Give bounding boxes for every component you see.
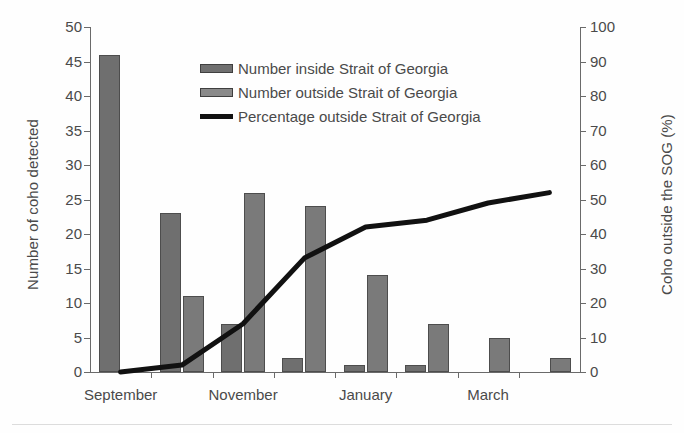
y-axis-right-tick-label: 80 <box>590 88 630 103</box>
legend-label-percentage: Percentage outside Strait of Georgia <box>238 109 481 124</box>
y-axis-left-tick-label: 0 <box>42 364 82 379</box>
y-axis-left-tick-label: 20 <box>42 226 82 241</box>
y-axis-right-tick-mark <box>580 372 586 373</box>
chart-legend: Number inside Strait of Georgia Number o… <box>200 56 481 128</box>
x-axis-tick-mark <box>213 373 214 378</box>
y-axis-left-tick-label: 5 <box>42 330 82 345</box>
y-axis-right-spine <box>580 27 581 372</box>
y-axis-right-tick-label: 30 <box>590 261 630 276</box>
bottom-divider <box>12 424 672 425</box>
y-axis-left-tick-label: 10 <box>42 295 82 310</box>
y-axis-right-tick-label: 10 <box>590 330 630 345</box>
y-axis-left-tick-label: 25 <box>42 192 82 207</box>
y-axis-left-tick-label: 35 <box>42 123 82 138</box>
y-axis-left-tick-label: 45 <box>42 54 82 69</box>
y-axis-left-title: Number of coho detected <box>24 85 41 325</box>
y-axis-right-tick-label: 20 <box>590 295 630 310</box>
y-axis-right-tick-label: 40 <box>590 226 630 241</box>
x-axis-tick-mark <box>151 373 152 378</box>
x-axis-tick-mark <box>274 373 275 378</box>
y-axis-left-tick-label: 15 <box>42 261 82 276</box>
x-axis-tick-label: March <box>428 386 548 403</box>
legend-swatch-line-icon <box>200 114 233 119</box>
x-axis-tick-label: September <box>61 386 181 403</box>
y-axis-right-tick-label: 90 <box>590 54 630 69</box>
x-axis-tick-label: January <box>306 386 426 403</box>
x-axis-tick-mark <box>458 373 459 378</box>
y-axis-left-tick-label: 40 <box>42 88 82 103</box>
legend-swatch-outside-icon <box>200 88 233 97</box>
legend-item-inside: Number inside Strait of Georgia <box>200 56 481 80</box>
legend-item-outside: Number outside Strait of Georgia <box>200 80 481 104</box>
x-axis-tick-mark <box>335 373 336 378</box>
y-axis-right-tick-label: 70 <box>590 123 630 138</box>
x-axis-tick-label: November <box>183 386 303 403</box>
y-axis-right-title: Coho outside the SOG (%) <box>658 85 675 325</box>
legend-item-percentage: Percentage outside Strait of Georgia <box>200 104 481 128</box>
x-axis-tick-mark <box>519 373 520 378</box>
chart-figure: Number of coho detected Coho outside the… <box>0 0 684 433</box>
percentage-polyline <box>121 193 550 372</box>
y-axis-right-tick-label: 50 <box>590 192 630 207</box>
x-axis-tick-mark <box>396 373 397 378</box>
y-axis-right-tick-label: 100 <box>590 19 630 34</box>
y-axis-right-tick-label: 0 <box>590 364 630 379</box>
legend-swatch-inside-icon <box>200 64 233 73</box>
y-axis-left-tick-label: 50 <box>42 19 82 34</box>
legend-label-outside: Number outside Strait of Georgia <box>238 85 457 100</box>
y-axis-left-tick-label: 30 <box>42 157 82 172</box>
y-axis-right-tick-label: 60 <box>590 157 630 172</box>
legend-label-inside: Number inside Strait of Georgia <box>238 61 448 76</box>
